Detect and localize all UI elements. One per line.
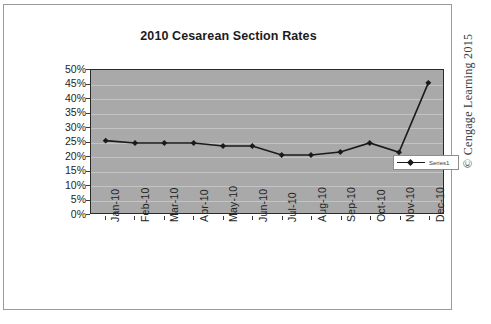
x-tick-mark xyxy=(282,216,283,220)
y-tick-label: 15% xyxy=(48,165,86,176)
x-tick-label: Jun-10 xyxy=(257,189,269,222)
data-point-marker xyxy=(308,152,314,158)
data-point-marker xyxy=(249,143,255,149)
y-axis-labels: 50%45%40%35%30%25%20%15%10%5%0% xyxy=(48,61,86,222)
x-tick-mark xyxy=(223,216,224,220)
data-point-marker xyxy=(103,138,109,144)
x-tick-label: Aug-10 xyxy=(316,187,328,222)
legend-label: Series1 xyxy=(429,160,449,166)
x-tick-label: Mar-10 xyxy=(168,188,180,222)
x-tick-mark xyxy=(370,216,371,220)
y-tick-label: 45% xyxy=(48,78,86,89)
x-tick-mark xyxy=(193,216,194,220)
x-tick-mark xyxy=(252,216,253,220)
chart-page-frame: 2010 Cesarean Section Rates 50%45%40%35%… xyxy=(3,4,452,310)
y-tick-label: 30% xyxy=(48,122,86,133)
x-tick-label: Jul-10 xyxy=(286,192,298,222)
y-tick-label: 0% xyxy=(48,209,86,220)
data-point-marker xyxy=(132,140,138,146)
copyright-notice: © Cengage Learning 2015 xyxy=(461,34,476,168)
x-tick-mark xyxy=(400,216,401,220)
chart-legend[interactable]: Series1 xyxy=(393,155,459,170)
x-tick-label: Sep-10 xyxy=(345,187,357,222)
y-tick-label: 50% xyxy=(48,64,86,75)
data-point-marker xyxy=(191,140,197,146)
x-tick-mark xyxy=(105,216,106,220)
y-tick-label: 5% xyxy=(48,194,86,205)
x-tick-mark xyxy=(429,216,430,220)
x-tick-mark xyxy=(341,216,342,220)
y-tick-label: 10% xyxy=(48,180,86,191)
series-line xyxy=(106,83,429,155)
x-tick-label: May-10 xyxy=(227,186,239,222)
x-tick-label: Apr-10 xyxy=(198,189,210,222)
y-tick-label: 35% xyxy=(48,107,86,118)
x-tick-label: Feb-10 xyxy=(139,188,151,222)
y-tick-mark xyxy=(86,214,90,215)
x-tick-label: Jan-10 xyxy=(109,189,121,222)
chart-title: 2010 Cesarean Section Rates xyxy=(4,29,453,43)
data-point-marker xyxy=(279,152,285,158)
x-tick-label: Dec-10 xyxy=(434,187,446,222)
y-tick-label: 40% xyxy=(48,93,86,104)
data-point-marker xyxy=(161,140,167,146)
data-point-marker xyxy=(367,140,373,146)
x-tick-label: Oct-10 xyxy=(375,189,387,222)
data-point-marker xyxy=(337,149,343,155)
legend-series-marker-icon xyxy=(397,158,425,167)
data-point-marker xyxy=(425,80,431,86)
x-tick-label: Nov-10 xyxy=(404,187,416,222)
x-tick-mark xyxy=(134,216,135,220)
y-tick-label: 25% xyxy=(48,136,86,147)
data-point-marker xyxy=(220,143,226,149)
x-axis-labels: Jan-10Feb-10Mar-10Apr-10May-10Jun-10Jul-… xyxy=(90,216,444,296)
x-tick-mark xyxy=(164,216,165,220)
x-tick-mark xyxy=(311,216,312,220)
y-tick-label: 20% xyxy=(48,151,86,162)
